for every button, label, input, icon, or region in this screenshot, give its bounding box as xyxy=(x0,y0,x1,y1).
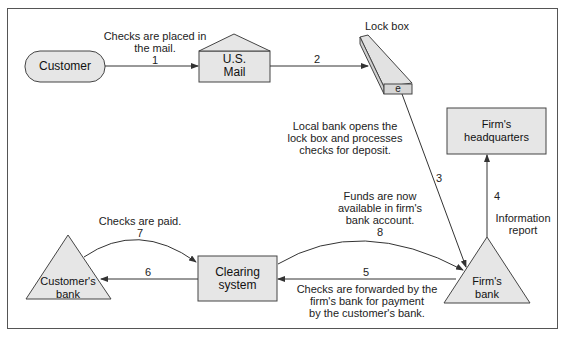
firms-bank-label-line2: bank xyxy=(475,288,499,300)
edge-5-label: Checks are forwarded by thefirm's bank f… xyxy=(292,283,442,319)
customers-bank-label-line1: Customer's xyxy=(40,275,95,287)
edge-7 xyxy=(84,240,196,262)
customers-bank-label: Customer'sbank xyxy=(33,275,103,301)
firms-hq-label-line2: headquarters xyxy=(464,131,529,143)
customer-label: Customer xyxy=(25,60,105,73)
firms-hq-label: Firm'sheadquarters xyxy=(447,118,546,144)
edge-8-text-line3: bank account. xyxy=(346,214,415,226)
edge-3-text-line2: lock box and processes xyxy=(288,132,403,144)
edge-3-step: 3 xyxy=(433,172,445,184)
edge-7-label: Checks are paid.7 xyxy=(90,215,190,239)
us-mail-label-line2: Mail xyxy=(223,65,245,79)
edge-8-label: Funds are nowavailable in firm'sbank acc… xyxy=(320,190,440,238)
us-mail-label-line1: U.S. xyxy=(223,52,246,66)
edge-5-step: 5 xyxy=(360,266,372,278)
customers-bank-label-line2: bank xyxy=(56,288,80,300)
edge-5-text-line3: by the customer's bank. xyxy=(309,307,425,319)
edge-1-text-line2: the mail. xyxy=(134,42,176,54)
edge-3-text-line1: Local bank opens the xyxy=(293,120,398,132)
edge-4-text-line2: report xyxy=(509,224,538,236)
firms-bank-label: Firm'sbank xyxy=(457,275,517,301)
edge-5-text-line2: firm's bank for payment xyxy=(310,295,424,307)
edge-8-text-line2: available in firm's xyxy=(338,202,422,214)
edge-8-step: 8 xyxy=(377,226,383,238)
edge-1-text-line1: Checks are placed in xyxy=(104,30,207,42)
edge-4-label: Informationreport xyxy=(491,212,555,236)
clearing-system-label-line1: Clearing xyxy=(215,265,260,279)
lock-box-title: Lock box xyxy=(352,20,422,32)
edge-7-text-line1: Checks are paid. xyxy=(99,215,182,227)
clearing-system-label-line2: system xyxy=(218,278,256,292)
firms-bank-label-line1: Firm's xyxy=(472,275,502,287)
edge-1-step: 1 xyxy=(152,54,158,66)
firms-hq-label-line1: Firm's xyxy=(482,118,512,130)
edge-1-label: Checks are placed inthe mail.1 xyxy=(95,30,215,66)
edge-3-text-line3: checks for deposit. xyxy=(299,144,391,156)
edge-4-text-line1: Information xyxy=(495,212,550,224)
edge-2-step: 2 xyxy=(310,53,324,65)
edge-7-step: 7 xyxy=(137,227,143,239)
lock-box-tag: e xyxy=(384,83,412,95)
clearing-system-label: Clearingsystem xyxy=(198,266,277,292)
edge-6-step: 6 xyxy=(142,266,154,278)
edge-8-text-line1: Funds are now xyxy=(344,190,417,202)
edge-3-label: Local bank opens thelock box and process… xyxy=(280,120,410,156)
edge-4-step: 4 xyxy=(491,190,503,202)
edge-5-text-line1: Checks are forwarded by the xyxy=(297,283,438,295)
